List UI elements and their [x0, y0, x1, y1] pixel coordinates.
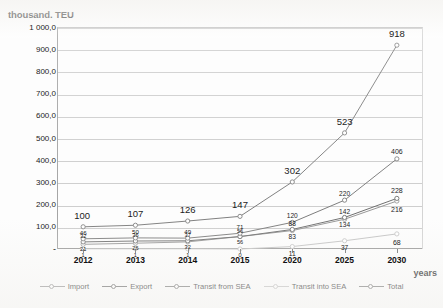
- legend-item-total[interactable]: Total: [359, 282, 403, 291]
- y-axis-tick-label: -: [2, 244, 56, 254]
- legend-item-label: Export: [130, 282, 152, 291]
- y-axis-tick-label: 300,0: [2, 178, 56, 187]
- data-point-label: 120: [287, 213, 298, 220]
- series-marker: [395, 196, 399, 200]
- data-point-label: 302: [284, 166, 300, 176]
- series-marker: [342, 198, 346, 202]
- data-point-label: 83: [289, 233, 296, 240]
- x-axis-tick-label: 2030: [375, 255, 419, 265]
- data-point-label: 523: [337, 117, 353, 127]
- data-point-label: 107: [127, 209, 143, 219]
- data-point-label: 147: [232, 201, 248, 211]
- data-point-label: 1: [134, 253, 137, 259]
- data-point-label: 126: [180, 205, 196, 215]
- legend-item-label: Transit from SEA: [193, 282, 251, 291]
- data-point-label: 100: [74, 211, 90, 221]
- y-axis-tick-label: 500,0: [2, 134, 56, 143]
- x-axis-title: years: [413, 268, 437, 278]
- series-marker: [342, 131, 346, 135]
- legend-item-transit-from-sea[interactable]: Transit from SEA: [165, 282, 251, 291]
- data-point-label: 406: [391, 147, 403, 154]
- data-point-label: 46: [80, 230, 87, 236]
- y-axis-tick-label: 700,0: [2, 89, 56, 98]
- y-axis-tick-label: 800,0: [2, 67, 56, 76]
- y-axis-tick-label: 900,0: [2, 45, 56, 54]
- data-point-label: 32: [185, 245, 191, 251]
- data-point-label: 1: [186, 253, 189, 259]
- series-marker: [395, 43, 399, 47]
- y-axis-tick-label: 600,0: [2, 111, 56, 120]
- legend-item-label: Transit into SEA: [292, 282, 347, 291]
- legend-item-label: Total: [387, 282, 403, 291]
- series-layer: [57, 27, 423, 249]
- data-point-label: 68: [393, 238, 401, 245]
- y-axis-tick-label: 200,0: [2, 200, 56, 209]
- data-point-label: 11: [289, 250, 296, 257]
- series-marker: [186, 219, 190, 223]
- legend-marker-icon: [165, 283, 190, 291]
- data-point-label: 142: [339, 209, 350, 216]
- legend-item-transit-into-sea[interactable]: Transit into SEA: [264, 282, 347, 291]
- data-point-label: 37: [341, 244, 348, 251]
- y-axis-tick-label: 1 000,0: [2, 23, 56, 32]
- series-marker: [395, 232, 399, 236]
- legend-marker-icon: [264, 283, 289, 291]
- legend-item-export[interactable]: Export: [102, 282, 152, 291]
- data-point-label: 134: [339, 222, 350, 229]
- series-marker: [290, 180, 294, 184]
- series-marker: [238, 214, 242, 218]
- legend-marker-icon: [359, 283, 384, 291]
- series-marker: [290, 227, 294, 231]
- series-marker: [342, 215, 346, 219]
- data-point-label: 0: [238, 253, 241, 259]
- legend-marker-icon: [102, 283, 127, 291]
- data-point-label: 228: [391, 187, 403, 194]
- legend-marker-icon: [40, 283, 65, 291]
- y-axis-title: thousand. TEU: [8, 9, 74, 20]
- legend-item-label: Import: [68, 282, 90, 291]
- data-point-label: 216: [391, 206, 403, 213]
- data-point-label: 918: [389, 29, 405, 39]
- y-axis-tick-label: 400,0: [2, 156, 56, 165]
- data-point-label: 88: [289, 221, 296, 228]
- data-point-label: 220: [339, 191, 350, 198]
- series-marker: [133, 223, 137, 227]
- data-point-label: 50: [132, 229, 139, 235]
- data-point-label: 71: [237, 224, 244, 230]
- data-point-label: 49: [184, 229, 191, 235]
- y-axis-tick-label: 100,0: [2, 222, 56, 231]
- legend-item-import[interactable]: Import: [40, 282, 90, 291]
- chart-root: thousand. TEU years ImportExportTransit …: [0, 0, 443, 308]
- data-point-label: 56: [237, 240, 243, 246]
- chart-legend: ImportExportTransit from SEATransit into…: [0, 282, 443, 291]
- series-marker: [395, 157, 399, 161]
- x-axis-tick-label: 2025: [323, 255, 367, 265]
- series-marker: [342, 239, 346, 243]
- data-point-label: 1: [82, 253, 85, 259]
- x-axis-tick-mark: [397, 249, 398, 253]
